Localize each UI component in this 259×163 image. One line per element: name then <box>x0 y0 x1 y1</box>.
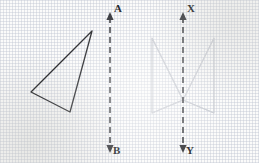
triangle-dark-left <box>31 31 92 112</box>
label-b: B <box>113 145 120 156</box>
line-ab-arrow-top-icon <box>106 12 113 20</box>
line-xy-arrow-top-icon <box>179 12 186 20</box>
label-x: X <box>187 3 195 14</box>
line-ab <box>106 12 113 153</box>
label-y: Y <box>186 145 194 156</box>
line-xy <box>179 12 186 153</box>
worksheet-figure: A B X Y <box>0 0 259 163</box>
figure-canvas <box>0 0 259 163</box>
label-a: A <box>114 3 122 14</box>
